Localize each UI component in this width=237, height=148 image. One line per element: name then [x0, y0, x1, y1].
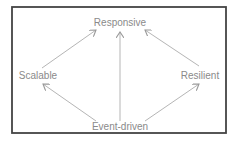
reactive-manifesto-diagram: Responsive Scalable Resilient Event-driv… — [0, 0, 237, 148]
node-scalable: Scalable — [19, 70, 58, 81]
node-resilient: Resilient — [181, 70, 220, 81]
node-event-driven: Event-driven — [92, 121, 148, 132]
node-responsive: Responsive — [94, 17, 147, 28]
